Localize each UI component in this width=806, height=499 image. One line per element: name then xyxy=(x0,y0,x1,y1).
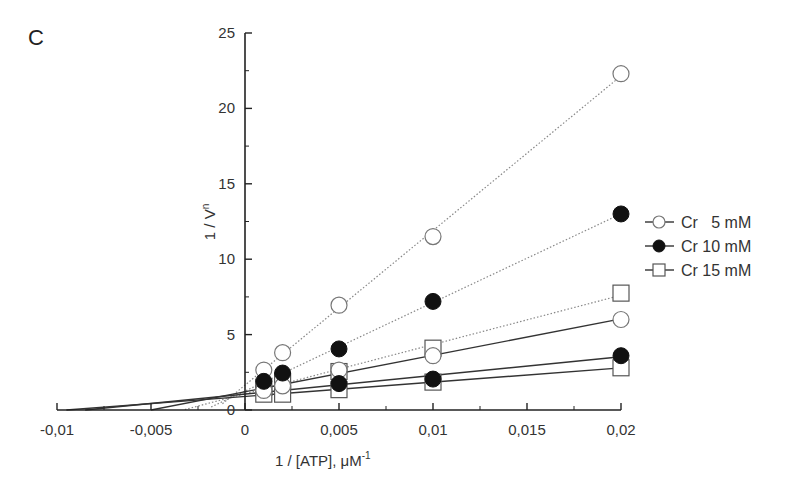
open-square-marker xyxy=(653,264,665,276)
filled-circle-marker xyxy=(425,293,441,309)
open-circle-marker xyxy=(613,312,629,328)
open-circle-marker xyxy=(613,66,629,82)
fit-line xyxy=(185,295,621,409)
open-circle-marker xyxy=(331,297,347,313)
x-tick-label: 0 xyxy=(241,421,249,438)
filled-circle-marker xyxy=(425,371,441,387)
panel-label: C xyxy=(28,25,44,50)
fit-lines xyxy=(66,76,621,410)
y-tick-label: 20 xyxy=(218,99,235,116)
legend: Cr 5 mMCr 10 mMCr 15 mM xyxy=(645,214,751,279)
y-tick-label: 10 xyxy=(218,250,235,267)
x-tick-label: -0,005 xyxy=(130,421,173,438)
filled-circle-marker xyxy=(275,365,291,381)
x-axis-title-text: 1 / [ATP], μM xyxy=(275,452,362,469)
x-tick-label: 0,005 xyxy=(320,421,358,438)
x-tick-label: 0,015 xyxy=(508,421,546,438)
legend-label: Cr 15 mM xyxy=(681,262,751,279)
filled-circle-marker xyxy=(331,376,347,392)
filled-circle-marker xyxy=(331,341,347,357)
data-points xyxy=(256,66,629,402)
legend-item: Cr 15 mM xyxy=(645,262,751,279)
y-tick-label: 0 xyxy=(227,401,235,418)
y-tick-label: 5 xyxy=(227,326,235,343)
filled-circle-marker xyxy=(653,240,665,252)
open-circle-marker xyxy=(425,229,441,245)
legend-item: Cr 5 mM xyxy=(645,214,751,231)
y-tick-label: 15 xyxy=(218,175,235,192)
x-axis-title-sup: -1 xyxy=(362,450,371,461)
legend-item: Cr 10 mM xyxy=(645,238,751,255)
y-axis-title: 1 / Vn xyxy=(200,204,218,240)
legend-label: Cr 10 mM xyxy=(681,238,751,255)
filled-circle-marker xyxy=(613,206,629,222)
filled-circle-marker xyxy=(613,348,629,364)
y-tick-label: 25 xyxy=(218,24,235,41)
y-axis-title-text: 1 / V xyxy=(201,209,218,240)
open-circle-marker xyxy=(653,216,665,228)
open-circle-marker xyxy=(275,345,291,361)
legend-label: Cr 5 mM xyxy=(681,214,751,231)
y-axis-title-sup: n xyxy=(200,204,211,210)
filled-circle-marker xyxy=(256,373,272,389)
chart: C -0,01-0,00500,0050,010,0150,0205101520… xyxy=(0,0,806,499)
open-square-marker xyxy=(613,285,629,301)
x-tick-label: 0,02 xyxy=(606,421,635,438)
x-axis-title: 1 / [ATP], μM-1 xyxy=(275,450,371,469)
x-tick-label: 0,01 xyxy=(418,421,447,438)
fit-line xyxy=(211,214,621,407)
x-tick-label: -0,01 xyxy=(40,421,74,438)
open-circle-marker xyxy=(425,348,441,364)
